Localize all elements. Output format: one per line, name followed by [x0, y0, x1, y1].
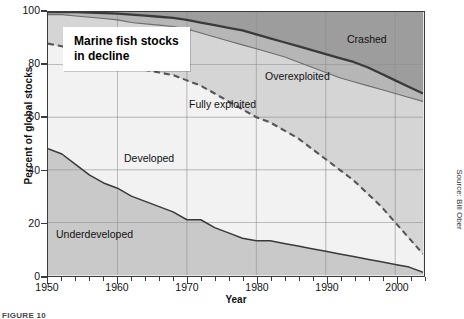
- x-tick-mark: [229, 277, 230, 281]
- x-tick-mark: [47, 277, 48, 284]
- x-tick-mark: [75, 277, 76, 281]
- x-tick-mark: [313, 277, 314, 281]
- x-tick-mark: [201, 277, 202, 281]
- x-tick-mark: [383, 277, 384, 281]
- source-attribution: Source: Bill Ober: [455, 150, 464, 250]
- band-label-developed: Developed: [124, 152, 174, 164]
- x-tick-mark: [117, 277, 118, 284]
- band-label-overexploited: Overexploited: [265, 70, 330, 82]
- y-tick-label: 60: [0, 110, 40, 122]
- callout-line-2: in decline: [74, 49, 179, 64]
- y-tick-label: 0: [0, 270, 40, 282]
- x-tick-mark: [159, 277, 160, 281]
- y-axis-ticks: 020406080100: [0, 0, 44, 319]
- y-tick-label: 80: [0, 57, 40, 69]
- x-tick-mark: [355, 277, 356, 281]
- x-tick-mark: [411, 277, 412, 281]
- x-tick-mark: [425, 277, 426, 281]
- x-tick-mark: [341, 277, 342, 281]
- band-label-crashed: Crashed: [347, 33, 387, 45]
- band-label-underdeveloped: Underdeveloped: [56, 228, 133, 240]
- x-tick-mark: [257, 277, 258, 284]
- x-axis-title: Year: [47, 294, 425, 305]
- x-tick-mark: [103, 277, 104, 281]
- y-tick-label: 20: [0, 217, 40, 229]
- chart-title-callout: Marine fish stocks in decline: [63, 27, 190, 71]
- figure-caption: FIGURE 10: [2, 311, 46, 319]
- x-tick-mark: [145, 277, 146, 281]
- x-tick-mark: [285, 277, 286, 281]
- x-tick-mark: [369, 277, 370, 281]
- x-tick-mark: [397, 277, 398, 284]
- x-tick-mark: [89, 277, 90, 281]
- x-tick-mark: [61, 277, 62, 281]
- y-tick-label: 40: [0, 164, 40, 176]
- band-label-fully-exploited: Fully exploited: [189, 98, 256, 110]
- x-tick-mark: [299, 277, 300, 281]
- y-tick-label: 100: [0, 4, 40, 16]
- x-tick-mark: [131, 277, 132, 281]
- callout-line-1: Marine fish stocks: [74, 34, 179, 49]
- x-tick-mark: [173, 277, 174, 281]
- x-tick-mark: [243, 277, 244, 281]
- x-tick-mark: [187, 277, 188, 284]
- x-tick-mark: [327, 277, 328, 284]
- x-tick-mark: [215, 277, 216, 281]
- x-tick-mark: [271, 277, 272, 281]
